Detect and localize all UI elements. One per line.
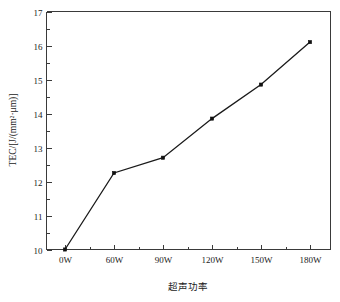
y-tick-label: 14 bbox=[34, 110, 44, 120]
x-tick-label: 60W bbox=[106, 255, 124, 265]
y-tick-label: 13 bbox=[34, 144, 44, 154]
x-tick-label: 90W bbox=[155, 255, 173, 265]
x-tick-label: 180W bbox=[300, 255, 323, 265]
data-point-marker bbox=[63, 248, 66, 251]
y-tick-label: 15 bbox=[34, 76, 44, 86]
y-tick-label: 17 bbox=[34, 8, 44, 18]
line-chart: 1011121314151617 0W60W90W120W150W180W 超声… bbox=[0, 0, 340, 302]
y-tick-label: 16 bbox=[34, 42, 44, 52]
chart-figure: 1011121314151617 0W60W90W120W150W180W 超声… bbox=[0, 0, 340, 302]
data-point-marker bbox=[112, 171, 115, 174]
data-point-marker bbox=[161, 156, 164, 159]
data-point-marker bbox=[210, 117, 213, 120]
data-point-marker bbox=[259, 83, 262, 86]
x-tick-label: 0W bbox=[59, 255, 73, 265]
x-tick-label: 120W bbox=[202, 255, 225, 265]
y-tick-label: 10 bbox=[34, 246, 44, 256]
y-tick-label: 11 bbox=[34, 212, 43, 222]
x-axis-title: 超声功率 bbox=[168, 281, 208, 292]
y-tick-label: 12 bbox=[34, 178, 43, 188]
data-point-marker bbox=[308, 41, 311, 44]
x-tick-label: 150W bbox=[251, 255, 274, 265]
y-axis-title: TEC/[J/(mm²·μm)] bbox=[8, 94, 19, 167]
